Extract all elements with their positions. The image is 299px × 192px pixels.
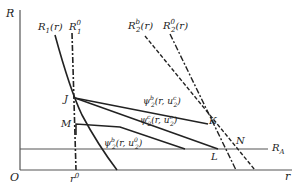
psi-label-2: ψc2(r, uc2) (140, 113, 178, 127)
r1-label: R1(r) (37, 21, 63, 35)
point-m-label: M (60, 118, 72, 129)
origin-label: O (10, 171, 19, 184)
ra-label: RA (271, 142, 285, 156)
point-l-label: L (210, 151, 218, 162)
psi-label-1: ψb2(r, uc2) (143, 94, 181, 108)
r0-tick-label: r0 (70, 172, 80, 184)
x-axis-label: r (285, 170, 291, 183)
r2-0-label: R02(r) (162, 18, 188, 34)
y-axis-label: R (5, 7, 14, 20)
point-k-label: K (208, 115, 217, 126)
psi-label-3: ψb2(r, u02) (104, 136, 143, 150)
r2b-label: Rb2(r) (127, 18, 153, 34)
point-n-label: N (235, 135, 246, 146)
point-j-label: J (62, 93, 69, 104)
r1-0-label: R01 (68, 19, 82, 36)
diagram-figure: R r O r0 R1(r) R01 Rb2(r) R02(r) RA ψb2(… (0, 0, 299, 192)
